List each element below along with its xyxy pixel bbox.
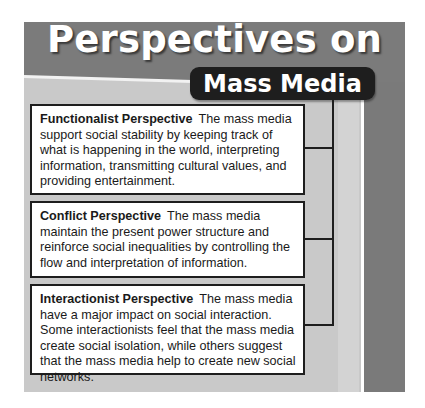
conflict-box: Conflict PerspectiveThe mass media maint… (30, 201, 305, 278)
functionalist-heading: Functionalist Perspective (40, 112, 193, 126)
title-mass-media-pill: Mass Media (190, 67, 375, 100)
connector-vertical (332, 100, 334, 326)
connector-functionalist (304, 147, 334, 149)
title-mass-media: Mass Media (203, 70, 362, 98)
interactionist-heading: Interactionist Perspective (40, 292, 193, 306)
connector-conflict (304, 238, 334, 240)
interactionist-box: Interactionist PerspectiveThe mass media… (30, 284, 305, 375)
conflict-heading: Conflict Perspective (40, 209, 161, 223)
functionalist-box: Functionalist PerspectiveThe mass media … (30, 104, 305, 195)
connector-interactionist (304, 324, 334, 326)
side-strip (364, 82, 405, 392)
connector-strip (338, 82, 359, 392)
title-perspectives-on: Perspectives on (24, 18, 405, 61)
